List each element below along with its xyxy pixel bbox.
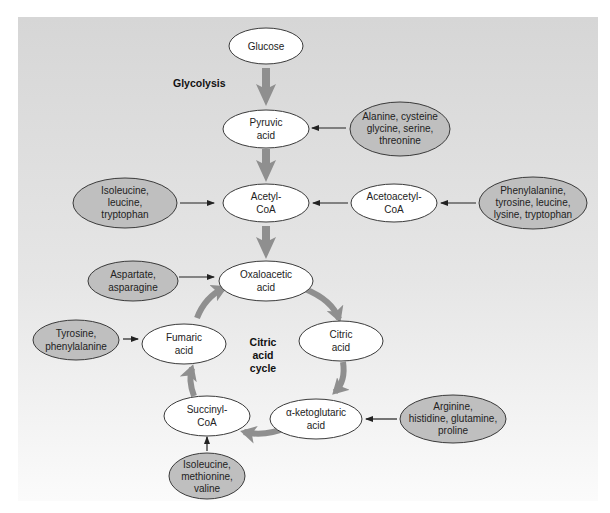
succinyl-label-1: Succinyl- <box>187 404 228 415</box>
glycolysis-label: Glycolysis <box>173 77 226 89</box>
oxaloacetic-label-1: Oxaloacetic <box>240 269 292 280</box>
aa-acetyl-3: tryptophan <box>101 209 148 220</box>
node-aa-oxaloacetic <box>88 261 178 301</box>
pyruvic-label-1: Pyruvic <box>250 117 283 128</box>
aa-fumaric-2: phenylalanine <box>45 341 107 352</box>
node-aa-fumaric <box>33 320 119 360</box>
citric-label-1: Citric <box>330 329 353 340</box>
acetoacetyl-label-1: Acetoacetyl- <box>366 191 421 202</box>
aa-ketoglutaric-3: proline <box>438 425 468 436</box>
aa-oxaloacetic-2: asparagine <box>108 282 158 293</box>
aa-ketoglutaric-1: Arginine, <box>433 401 472 412</box>
oxaloacetic-label-2: acid <box>257 282 275 293</box>
node-oxaloacetic-acid <box>219 261 313 301</box>
aa-acetoacetyl-3: lysine, tryptophan <box>494 209 572 220</box>
fumaric-label-2: acid <box>175 345 193 356</box>
aa-succinyl-3: valine <box>194 483 221 494</box>
aa-fumaric-1: Tyrosine, <box>56 328 97 339</box>
aa-pyruvic-3: threonine <box>379 135 421 146</box>
node-alpha-ketoglutaric-acid <box>270 399 362 439</box>
node-succinyl-coa <box>164 396 250 436</box>
cycle-label-line1: Citric <box>250 336 277 348</box>
acetoacetyl-label-2: CoA <box>384 204 404 215</box>
ketoglutaric-label-2: acid <box>307 420 325 431</box>
cycle-label-line3: cycle <box>250 362 276 374</box>
aa-acetoacetyl-1: Phenylalanine, <box>500 185 566 196</box>
node-citric-acid <box>299 321 383 361</box>
citric-acid-cycle-label: Citric acid cycle <box>250 336 277 374</box>
glucose-label: Glucose <box>248 41 285 52</box>
node-fumaric-acid <box>142 324 226 364</box>
node-acetoacetyl-coa <box>351 184 437 222</box>
acetyl-label-2: CoA <box>256 204 276 215</box>
aa-ketoglutaric-2: histidine, glutamine, <box>409 413 497 424</box>
node-acetyl-coa <box>223 184 309 222</box>
aa-oxaloacetic-1: Aspartate, <box>110 269 156 280</box>
aa-pyruvic-1: Alanine, cysteine <box>362 111 438 122</box>
succinyl-label-2: CoA <box>197 417 217 428</box>
pyruvic-label-2: acid <box>257 130 275 141</box>
cycle-label-line2: acid <box>252 349 273 361</box>
acetyl-label-1: Acetyl- <box>251 191 282 202</box>
aa-acetyl-1: Isoleucine, <box>101 185 149 196</box>
aa-succinyl-1: Isoleucine, <box>183 459 231 470</box>
arrow-succinyl-to-fumaric <box>190 368 194 396</box>
node-pyruvic-acid <box>223 110 309 148</box>
citric-acid-cycle-diagram: Glycolysis Citric acid cycle Glucose Pyr… <box>0 0 610 513</box>
fumaric-label-1: Fumaric <box>166 332 202 343</box>
aa-acetyl-2: leucine, <box>108 197 142 208</box>
aa-pyruvic-2: glycine, serine, <box>367 123 434 134</box>
aa-succinyl-2: methionine, <box>181 471 233 482</box>
ketoglutaric-label-1: α-ketoglutaric <box>286 407 346 418</box>
citric-label-2: acid <box>332 342 350 353</box>
aa-acetoacetyl-2: tyrosine, leucine, <box>495 197 570 208</box>
